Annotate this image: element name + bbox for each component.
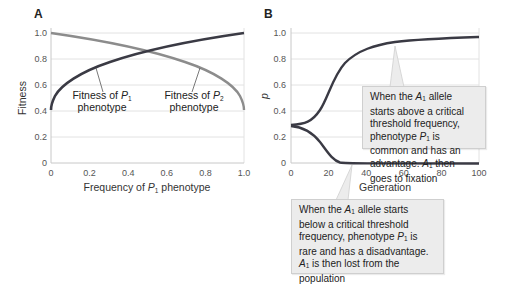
panel-a: A 0 0.2 0.4 0.6 0.8 1.0 0 0.2 0.4 [16, 7, 250, 194]
callout-below-threshold: When the A1 allele starts below a critic… [291, 199, 444, 274]
y-tick: 0 [281, 158, 286, 168]
panel-a-label: A [34, 7, 43, 21]
panel-b-yticks: 0 0.2 0.4 0.6 0.8 1.0 [273, 28, 286, 168]
x-tick: 0 [48, 168, 53, 178]
x-tick: 0.2 [83, 168, 96, 178]
x-tick: 1.0 [238, 168, 251, 178]
panel-a-x-axis-label: Frequency of P1 phenotype [84, 181, 211, 194]
y-tick: 0 [42, 158, 47, 168]
p1-curve-label-line2: phenotype [77, 101, 126, 113]
y-tick: 0.4 [34, 106, 47, 116]
panel-a-y-axis-label: Fitness [16, 81, 28, 115]
y-tick: 0.2 [34, 132, 47, 142]
x-tick: 20 [324, 168, 334, 178]
y-tick: 0.8 [273, 54, 286, 64]
y-tick: 0.6 [273, 80, 286, 90]
y-tick: 0.4 [273, 106, 286, 116]
y-tick: 0.8 [34, 54, 47, 64]
y-tick: 1.0 [34, 28, 47, 38]
panel-a-yticks: 0 0.2 0.4 0.6 0.8 1.0 [34, 28, 47, 168]
y-tick: 0.2 [273, 132, 286, 142]
y-tick: 1.0 [273, 28, 286, 38]
callout-below-pointer [336, 165, 352, 200]
panel-b-label: B [264, 7, 273, 21]
x-tick: 100 [471, 168, 486, 178]
y-tick: 0.6 [34, 80, 47, 90]
x-tick: 0.8 [199, 168, 212, 178]
callout-above-threshold: When the A1 allele starts above a critic… [362, 86, 486, 149]
x-tick: 0.6 [161, 168, 174, 178]
callout-above-pointer [390, 46, 404, 87]
panel-b-y-axis-label: p [258, 93, 270, 100]
p2-curve-label-line2: phenotype [169, 101, 218, 113]
x-tick: 0 [288, 168, 293, 178]
x-tick: 0.4 [122, 168, 135, 178]
panel-a-xticks: 0 0.2 0.4 0.6 0.8 1.0 [48, 168, 250, 178]
